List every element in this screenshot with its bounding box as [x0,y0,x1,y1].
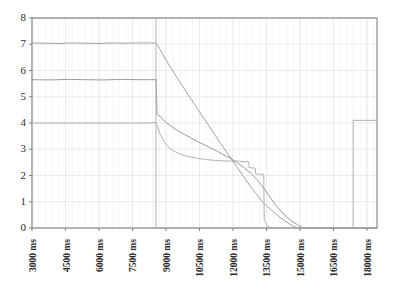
chart-container: 012345678 3000 ms4500 ms6000 ms7500 ms90… [0,0,400,298]
y-tick-label: 6 [21,64,27,76]
y-tick-label: 8 [21,11,27,23]
x-tick-label: 12000 ms [229,239,239,277]
y-tick-label: 3 [21,142,27,154]
y-tick-label: 1 [21,195,27,207]
y-tick-label: 2 [21,169,27,181]
x-tick-label: 6000 ms [95,239,105,272]
x-tick-label: 10500 ms [195,239,205,277]
y-tick-label: 5 [21,90,27,102]
x-tick-label: 7500 ms [128,239,138,272]
y-tick-label: 0 [21,221,27,233]
y-tick-label: 4 [21,116,27,128]
x-tick-label: 18000 ms [363,239,373,277]
y-tick-label: 7 [21,37,27,49]
x-tick-label: 15000 ms [296,239,306,277]
x-tick-label: 3000 ms [28,239,38,272]
x-tick-label: 16500 ms [329,239,339,277]
x-tick-label: 9000 ms [162,239,172,272]
line-chart: 012345678 3000 ms4500 ms6000 ms7500 ms90… [0,0,400,298]
x-tick-label: 4500 ms [62,239,72,272]
x-tick-label: 13500 ms [262,239,272,277]
